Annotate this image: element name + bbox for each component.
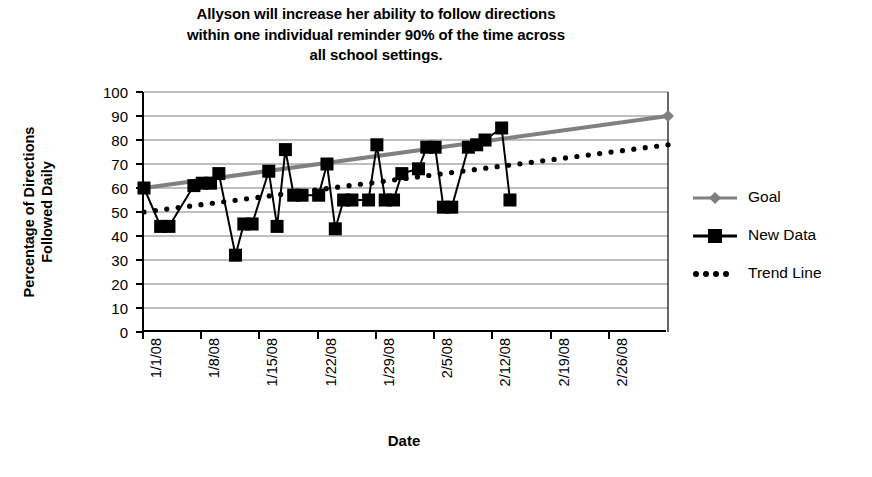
trend-line-dot: [483, 166, 488, 171]
x-axis-tick-labels: 1/1/081/8/081/15/081/22/081/29/082/5/082…: [142, 338, 666, 418]
y-axis-tick-label: 30: [111, 252, 128, 269]
chart-legend: GoalNew DataTrend Line: [692, 178, 862, 292]
new-data-marker-square: [370, 138, 383, 151]
new-data-marker-square: [320, 158, 333, 171]
y-axis-tick-label: 10: [111, 300, 128, 317]
trend-line-dot: [335, 185, 340, 190]
x-axis-tick-label: 1/22/08: [323, 338, 339, 386]
x-axis-tick-label: 1/15/08: [264, 338, 280, 386]
trend-line-dot: [665, 142, 670, 147]
trend-line-dot: [495, 164, 500, 169]
x-axis-title: Date: [142, 432, 666, 449]
new-data-marker-square: [212, 167, 225, 180]
x-axis-tick-label: 2/12/08: [497, 338, 513, 386]
trend-key-dot: [693, 271, 699, 277]
legend-label: New Data: [748, 226, 816, 244]
new-data-marker-square: [495, 122, 508, 135]
new-data-marker-square: [138, 182, 151, 195]
legend-item-goal[interactable]: Goal: [692, 178, 862, 216]
y-axis-tick-label: 60: [111, 180, 128, 197]
plot-area: [142, 92, 666, 332]
y-axis-tick-label: 20: [111, 276, 128, 293]
y-axis-tick-label: 40: [111, 228, 128, 245]
trend-line-dot: [643, 145, 648, 150]
new-data-marker-square: [162, 220, 175, 233]
y-axis-title: Percentage of DirectionsFollowed Daily: [18, 92, 60, 332]
trend-key-dot: [703, 271, 709, 277]
y-axis-tick-label: 80: [111, 132, 128, 149]
new-data-marker-square: [387, 194, 400, 207]
chart-title: Allyson will increase her ability to fol…: [96, 4, 656, 66]
new-data-marker-square: [312, 189, 325, 202]
goal-key-diamond: [709, 192, 721, 204]
new-data-marker-square: [412, 162, 425, 175]
x-axis-tick-label: 2/19/08: [556, 338, 572, 386]
trend-line-dot: [551, 157, 556, 162]
new-data-marker-square: [246, 218, 259, 231]
new-data-line-square-icon: [692, 228, 738, 242]
y-axis-title-line-1: Followed Daily: [39, 127, 57, 298]
trend-line-dot: [426, 173, 431, 178]
new-data-marker-square: [262, 165, 275, 178]
new-data-key-square: [708, 229, 722, 243]
x-axis-tick-label: 1/8/08: [206, 338, 222, 378]
y-axis-tick-label: 0: [120, 324, 128, 341]
trend-line-dot: [449, 170, 454, 175]
x-axis-tick-label: 1/1/08: [148, 338, 164, 378]
chart-title-line-0: Allyson will increase her ability to fol…: [96, 4, 656, 25]
y-axis-title-line-0: Percentage of Directions: [21, 127, 39, 298]
chart-figure: Allyson will increase her ability to fol…: [0, 0, 872, 477]
x-axis-tick-label: 1/29/08: [381, 338, 397, 386]
y-axis-tick-labels: 1009080706050403020100: [96, 92, 136, 332]
trend-line-dot: [244, 196, 249, 201]
trend-line-dotted-icon: [692, 266, 738, 280]
new-data-marker-square: [362, 194, 375, 207]
legend-label: Goal: [748, 188, 781, 206]
trend-line-dot: [654, 144, 659, 149]
y-axis-tick-label: 70: [111, 156, 128, 173]
new-data-marker-square: [479, 134, 492, 147]
legend-item-trend-line[interactable]: Trend Line: [692, 254, 862, 292]
trend-line-dot: [563, 155, 568, 160]
x-axis-tick-label: 2/26/08: [614, 338, 630, 386]
trend-key-dot: [713, 271, 719, 277]
chart-title-line-1: within one individual reminder 90% of th…: [96, 25, 656, 46]
trend-line-dot: [529, 160, 534, 165]
new-data-marker-square: [329, 222, 342, 235]
y-axis-tick-label: 100: [103, 84, 128, 101]
legend-item-new-data[interactable]: New Data: [692, 216, 862, 254]
plot-svg: [144, 92, 668, 332]
trend-line-dot: [198, 202, 203, 207]
chart-title-line-2: all school settings.: [96, 45, 656, 66]
goal-marker-diamond: [662, 110, 674, 122]
legend-label: Trend Line: [748, 264, 822, 282]
new-data-marker-square: [429, 141, 442, 154]
new-data-marker-square: [395, 167, 408, 180]
y-axis-tick-label: 50: [111, 204, 128, 221]
series-new-data: [138, 122, 517, 262]
trend-line-dot: [472, 167, 477, 172]
trend-line-dot: [164, 206, 169, 211]
x-axis-tick-label: 2/5/08: [439, 338, 455, 378]
new-data-marker-square: [296, 189, 309, 202]
trend-line-dot: [187, 204, 192, 209]
y-axis-tick-label: 90: [111, 108, 128, 125]
trend-line-dot: [346, 183, 351, 188]
trend-line-dot: [608, 150, 613, 155]
new-data-marker-square: [503, 194, 516, 207]
trend-line-dot: [597, 151, 602, 156]
new-data-marker-square: [271, 220, 284, 233]
trend-line-dot: [540, 158, 545, 163]
goal-line-diamond-icon: [692, 190, 738, 204]
trend-line-dot: [267, 193, 272, 198]
trend-key-dot: [723, 271, 729, 277]
new-data-marker-square: [229, 249, 242, 262]
series-goal: [138, 110, 674, 194]
trend-line-dot: [210, 201, 215, 206]
trend-line-dot: [233, 198, 238, 203]
trend-line-dot: [631, 147, 636, 152]
trend-line-dot: [620, 148, 625, 153]
trend-line-dot: [141, 209, 146, 214]
trend-line-dot: [517, 161, 522, 166]
new-data-marker-square: [345, 194, 358, 207]
